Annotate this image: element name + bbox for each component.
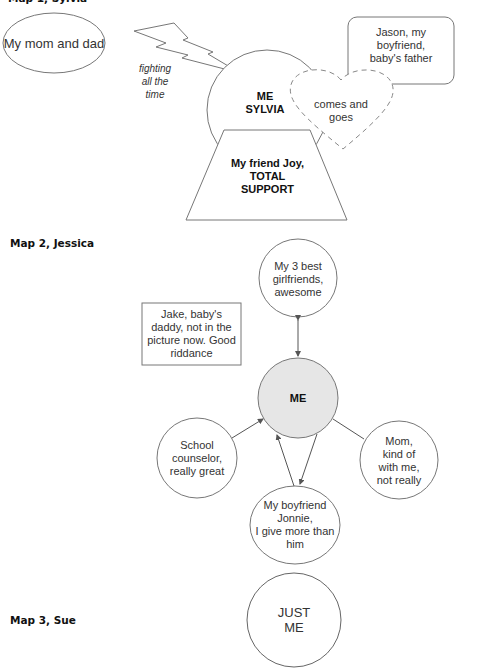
map3-title: Map 3, Sue <box>10 614 76 626</box>
map2-title: Map 2, Jessica <box>10 237 94 249</box>
jonnie-label: My boyfriend Jonnie, I give more than hi… <box>250 498 340 552</box>
map1-title: Map 1, Sylvia <box>8 0 87 4</box>
parents-label: My mom and dad <box>3 30 105 56</box>
me-to-jonnie-arrow <box>300 434 317 484</box>
counselor-label: School counselor, really great <box>160 438 234 478</box>
mom-label: Mom, kind of with me, not really <box>364 434 434 488</box>
joy-label: My friend Joy, TOTAL SUPPORT <box>215 155 320 197</box>
heart-label: comes and goes <box>305 96 377 126</box>
girlfriends-label: My 3 best girlfriends, awesome <box>262 259 334 299</box>
mom-connector <box>333 419 364 439</box>
jason-label: Jason, my boyfriend, baby's father <box>350 24 452 66</box>
conflict-label: fighting all the time <box>130 60 180 102</box>
jake-label: Jake, baby's daddy, not in the picture n… <box>142 307 241 361</box>
counselor-arrow <box>232 419 263 438</box>
sylvia-label: ME SYLVIA <box>230 88 300 118</box>
jonnie-to-me-arrow <box>277 435 294 486</box>
me-label: ME <box>270 390 326 406</box>
just-me-label: JUST ME <box>264 604 324 636</box>
